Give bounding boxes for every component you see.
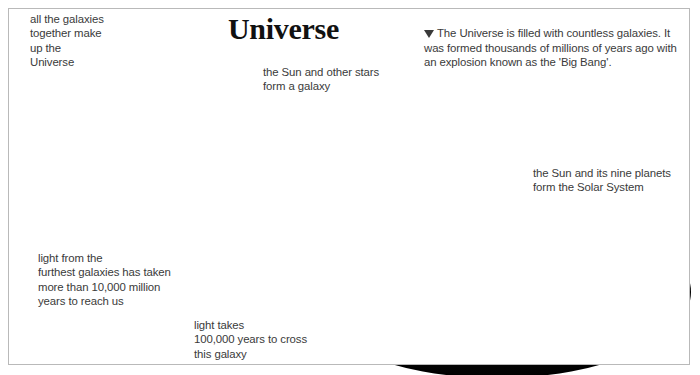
caption-solar-system: the Sun and its nine planets form the So…: [533, 166, 700, 195]
caption-light-furthest-galaxies: light from the furthest galaxies has tak…: [38, 251, 248, 309]
triangle-marker-icon: [424, 30, 434, 38]
caption-sun-and-other-stars: the Sun and other stars form a galaxy: [263, 65, 443, 94]
caption-big-bang-text: The Universe is filled with countless ga…: [424, 27, 677, 68]
universe-infographic: Universe all the galaxies together make …: [0, 0, 700, 375]
page-title: Universe: [228, 12, 339, 46]
caption-light-crosses-galaxy: light takes 100,000 years to cross this …: [194, 318, 374, 361]
caption-universe-sphere: all the galaxies together make up the Un…: [30, 12, 150, 70]
caption-big-bang: The Universe is filled with countless ga…: [424, 12, 686, 70]
